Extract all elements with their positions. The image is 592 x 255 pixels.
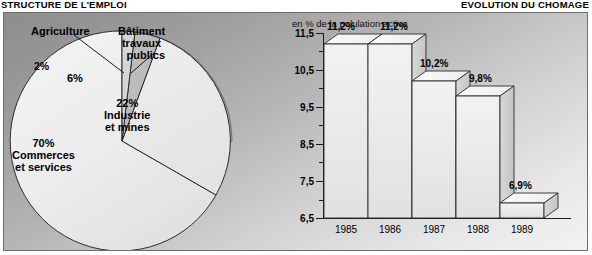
pie-label-industrie-line1: Industrie [104, 110, 150, 122]
x-label-1986: 1986 [368, 224, 412, 235]
bar-value-1988: 9,8% [469, 73, 492, 84]
pie-value-batiment: 6% [67, 73, 83, 85]
bar-chart: en % de la polulation active 11,5 10,5 9… [272, 13, 588, 251]
infographic-page: STRUCTURE DE L'EMPLOI EVOLUTION DU CHOMA… [0, 0, 592, 255]
pie-label-agriculture: Agriculture [31, 26, 90, 38]
pie-label-industrie-line2: et mines [104, 122, 150, 134]
x-label-1987: 1987 [412, 224, 456, 235]
pie-label-industrie: 22% Industrie et mines [104, 98, 150, 134]
pie-label-batiment-line3: publics [118, 50, 165, 62]
chart-panel: Agriculture Bâtiment travaux publics 2% … [3, 12, 588, 251]
pie-label-batiment: Bâtiment travaux publics [118, 26, 165, 62]
bar-value-1986: 11,2% [380, 21, 408, 32]
pie-value-agriculture: 2% [34, 61, 49, 72]
x-label-1989: 1989 [500, 224, 544, 235]
bar-1989 [500, 193, 558, 218]
pie-label-commerces-line2: et services [12, 162, 75, 174]
bar-value-1989: 6,9% [509, 180, 532, 191]
page-title-left: STRUCTURE DE L'EMPLOI [1, 0, 127, 10]
pie-label-commerces: 70% Commerces et services [12, 138, 75, 174]
x-label-1985: 1985 [324, 224, 368, 235]
bar-value-1987: 10,2% [420, 58, 448, 69]
bar-value-1985: 11,2% [327, 21, 355, 32]
pie-label-commerces-line1: Commerces [12, 150, 75, 162]
page-title-right: EVOLUTION DU CHOMAGE [461, 0, 589, 10]
bar-1988 [456, 86, 514, 218]
bar-chart-graphic [272, 13, 588, 251]
pie-label-batiment-line2: travaux [118, 38, 165, 50]
x-label-1988: 1988 [456, 224, 500, 235]
pie-chart: Agriculture Bâtiment travaux publics 2% … [4, 13, 272, 251]
